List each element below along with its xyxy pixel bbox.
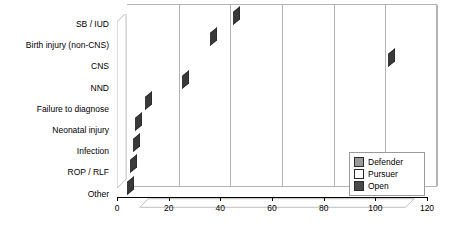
legend-label: Defender <box>368 156 403 168</box>
legend-item[interactable]: Pursuer <box>354 168 420 180</box>
category-axis-label: Other <box>0 184 112 205</box>
axis-tick-label: 120 <box>412 203 442 213</box>
axis-tick-label: 20 <box>154 203 184 213</box>
category-axis-label: Birth injury (non-CNS) <box>0 35 112 56</box>
category-axis-label: CNS <box>0 56 112 77</box>
chart-left-wall <box>117 14 127 197</box>
category-axis-label: Infection <box>0 141 112 162</box>
bar-chart: SB / IUDBirth injury (non-CNS)CNSNNDFail… <box>0 0 450 243</box>
category-axis-label: Failure to diagnose <box>0 99 112 120</box>
legend-label: Open <box>368 180 389 192</box>
axis-tick <box>169 197 170 201</box>
gridline <box>230 5 231 186</box>
axis-tick-label: 0 <box>102 203 132 213</box>
legend-label: Pursuer <box>368 168 398 180</box>
category-axis-label: Neonatal injury <box>0 120 112 141</box>
legend-item[interactable]: Open <box>354 180 420 192</box>
axis-tick <box>220 197 221 201</box>
category-axis-label: NND <box>0 78 112 99</box>
gridline <box>334 5 335 186</box>
axis-tick-label: 60 <box>257 203 287 213</box>
category-axis-label: ROP / RLF <box>0 162 112 183</box>
gridline <box>437 5 438 186</box>
gridline <box>282 5 283 186</box>
axis-tick <box>375 197 376 201</box>
chart-legend: DefenderPursuerOpen <box>349 152 425 196</box>
axis-tick-label: 80 <box>309 203 339 213</box>
axis-tick-label: 40 <box>205 203 235 213</box>
axis-tick <box>117 197 118 201</box>
axis-tick-label: 100 <box>360 203 390 213</box>
axis-tick <box>324 197 325 201</box>
gridline <box>179 5 180 186</box>
legend-swatch-icon <box>354 181 364 191</box>
value-axis: 020406080100120 <box>117 197 437 199</box>
category-axis-label: SB / IUD <box>0 14 112 35</box>
legend-item[interactable]: Defender <box>354 156 420 168</box>
legend-swatch-icon <box>354 169 364 179</box>
axis-tick <box>427 197 428 201</box>
category-axis-labels: SB / IUDBirth injury (non-CNS)CNSNNDFail… <box>0 14 112 205</box>
axis-tick <box>272 197 273 201</box>
legend-swatch-icon <box>354 157 364 167</box>
